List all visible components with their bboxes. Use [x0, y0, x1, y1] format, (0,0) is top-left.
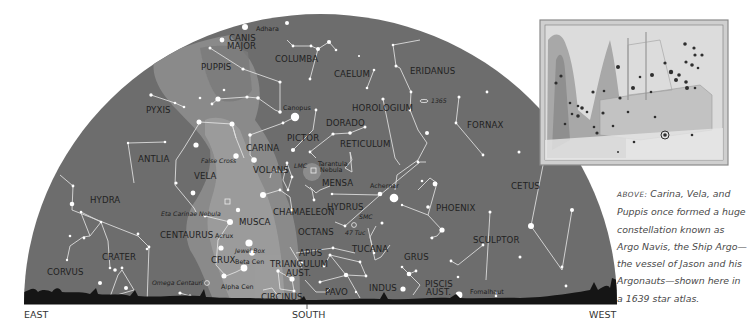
label-omega-centauri: Omega Centauri: [152, 279, 203, 287]
label-centaurus: CENTAURUS: [160, 230, 213, 240]
label-beta-cen: Beta Cen: [235, 258, 264, 266]
direction-west: WEST: [589, 309, 616, 320]
label-pyxis: PYXIS: [146, 105, 171, 115]
caption-lead: Above:: [617, 190, 647, 199]
label-circinus: CIRCINUS: [261, 292, 303, 302]
label-canis-major-2: MAJOR: [227, 41, 256, 51]
label-lmc: LMC: [294, 162, 308, 169]
label-jewel-box: Jewel Box: [233, 247, 265, 255]
label-reticulum: RETICULUM: [340, 139, 390, 149]
label-triangulum-aust-2: AUST.: [286, 268, 311, 278]
label-grus: GRUS: [404, 252, 429, 262]
label-47-tuc: 47 Tuc: [345, 229, 366, 236]
direction-east: EAST: [24, 309, 49, 320]
label-adhara: Adhara: [256, 25, 279, 33]
label-sculptor: SCULPTOR: [473, 235, 520, 245]
label-ngc1365: 1365: [431, 97, 447, 104]
label-fomalhaut: Fomalhaut: [470, 288, 504, 296]
label-puppis: PUPPIS: [201, 62, 231, 72]
label-carina: CARINA: [246, 143, 279, 153]
label-piscis-aust-2: AUST.: [426, 287, 451, 297]
label-acrux: Acrux: [215, 232, 233, 240]
label-vela: VELA: [194, 171, 217, 181]
label-octans: OCTANS: [298, 227, 334, 237]
label-volans: VOLANS: [253, 165, 289, 175]
label-antlia: ANTLIA: [138, 154, 169, 164]
label-canopus: Canopus: [283, 104, 311, 112]
label-mensa: MENSA: [322, 178, 353, 188]
label-crater: CRATER: [102, 252, 136, 262]
label-fornax: FORNAX: [467, 120, 503, 130]
label-hydrus: HYDRUS: [327, 202, 364, 212]
label-alpha-cen: Alpha Cen: [221, 283, 254, 291]
label-eridanus: ERIDANUS: [410, 66, 455, 76]
label-achernar: Achernar: [370, 182, 399, 190]
label-phoenix: PHOENIX: [436, 203, 475, 213]
argo-navis-atlas-inset: [540, 20, 728, 165]
label-columba: COLUMBA: [275, 54, 318, 64]
label-indus: INDUS: [369, 283, 397, 293]
label-pavo: PAVO: [325, 287, 348, 297]
label-cetus: CETUS: [511, 181, 540, 191]
label-tucana: TUCANA: [351, 244, 388, 254]
label-apus: APUS: [299, 248, 322, 258]
atlas-caption: Above: Carina, Vela, and Puppis once for…: [617, 185, 747, 307]
label-eta-carinae: Eta Carinae Nebula: [161, 210, 221, 217]
label-smc: SMC: [359, 213, 373, 220]
label-false-cross: False Cross: [201, 157, 237, 164]
label-hydra: HYDRA: [90, 195, 120, 205]
label-musca: MUSCA: [239, 217, 271, 227]
label-caelum: CAELUM: [334, 69, 370, 79]
label-chamaeleon: CHAMAELEON: [273, 207, 334, 217]
direction-south: SOUTH: [292, 309, 325, 320]
label-corvus: CORVUS: [47, 267, 84, 277]
label-dorado: DORADO: [326, 118, 365, 128]
label-pictor: PICTOR: [287, 133, 319, 143]
label-tarantula-2: Nebula: [320, 166, 343, 174]
caption-text: Carina, Vela, and Puppis once formed a h…: [617, 188, 747, 304]
label-crux: CRUX: [211, 255, 236, 265]
label-horologium: HOROLOGIUM: [352, 103, 413, 113]
